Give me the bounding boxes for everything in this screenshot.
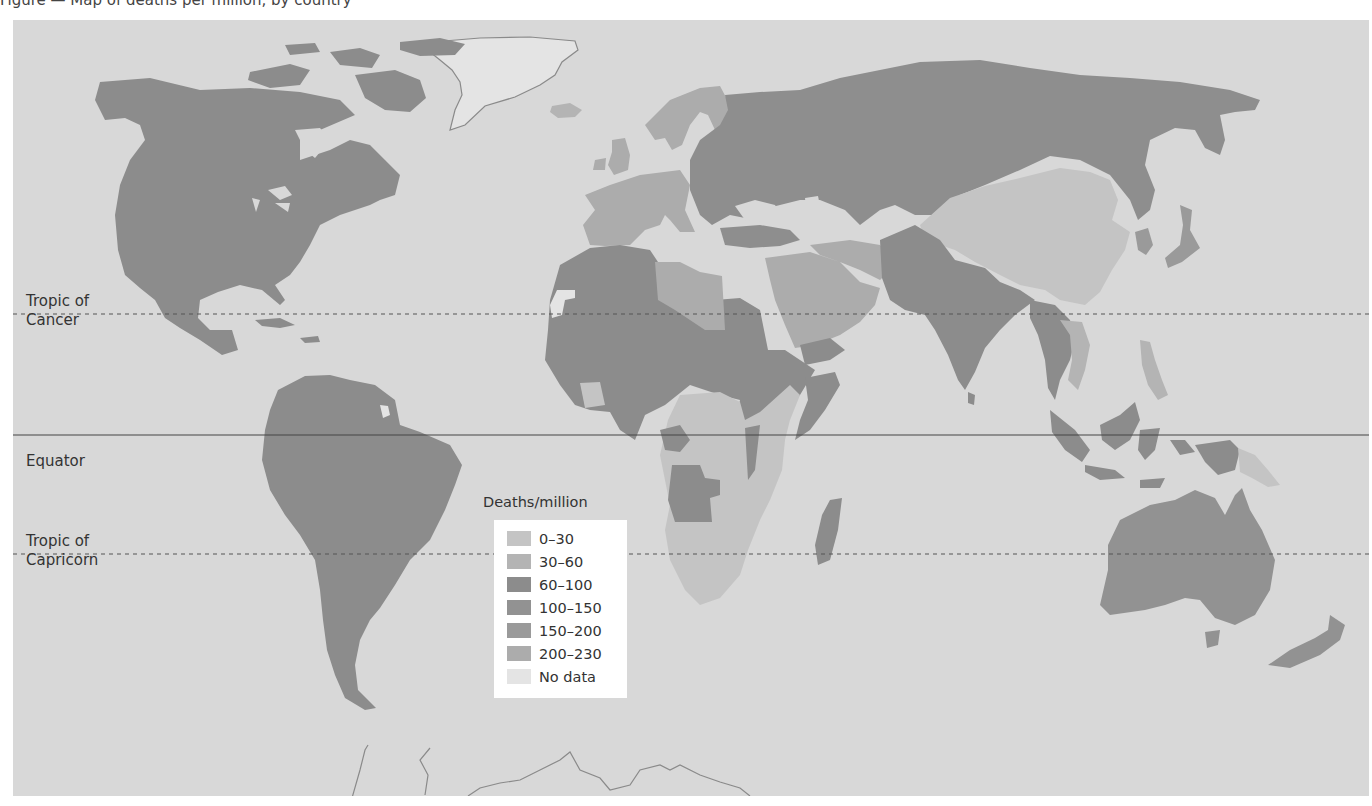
figure-caption: Figure — Map of deaths per million, by c… — [0, 0, 352, 9]
map-canvas — [13, 20, 1369, 796]
legend-item: 60–100 — [507, 574, 592, 595]
region-iceland — [550, 103, 582, 118]
region-uk — [593, 138, 630, 175]
legend-swatch — [507, 623, 531, 638]
region-indonesia — [1050, 402, 1195, 488]
legend-item: 100–150 — [507, 597, 602, 618]
region-southeast-asia — [1030, 300, 1075, 400]
region-madagascar — [815, 498, 842, 565]
region-caribbean — [255, 318, 320, 343]
tropic-of-capricorn-label: Tropic of Capricorn — [26, 532, 98, 570]
legend: 0–30 30–60 60–100 100–150 150–200 200–23… — [494, 520, 627, 698]
region-antarctica — [352, 745, 750, 796]
legend-swatch — [507, 577, 531, 592]
region-new-guinea — [1195, 440, 1240, 475]
region-philippines — [1140, 340, 1168, 400]
region-korea — [1135, 228, 1153, 255]
legend-item: 0–30 — [507, 528, 574, 549]
region-turkey — [720, 225, 800, 248]
legend-item: 30–60 — [507, 551, 583, 572]
legend-swatch — [507, 600, 531, 615]
region-new-zealand — [1268, 615, 1345, 668]
legend-item: 150–200 — [507, 620, 602, 641]
region-western-europe — [583, 170, 695, 246]
legend-swatch — [507, 554, 531, 569]
legend-swatch — [507, 669, 531, 684]
world-map — [13, 20, 1369, 796]
region-papua-new-guinea — [1238, 448, 1280, 487]
legend-item: 200–230 — [507, 643, 602, 664]
legend-swatch — [507, 531, 531, 546]
region-middle-east — [765, 240, 895, 348]
tropic-of-cancer-label: Tropic of Cancer — [26, 292, 89, 330]
region-australia — [1100, 488, 1275, 625]
region-japan — [1165, 205, 1200, 268]
equator-label: Equator — [26, 452, 85, 471]
region-south-america — [262, 375, 462, 710]
legend-item: No data — [507, 666, 596, 687]
legend-swatch — [507, 646, 531, 661]
legend-title: Deaths/million — [483, 494, 588, 510]
